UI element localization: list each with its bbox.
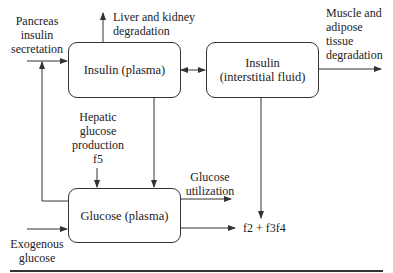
liver-label: Liver and kidney degradation	[113, 10, 195, 38]
pancreas-label: Pancreas insulin secretation	[8, 14, 66, 56]
insulin-plasma-box: Insulin (plasma)	[68, 42, 181, 98]
f-output-label: f2 + f3f4	[243, 221, 286, 235]
glucose-utilization-label: Glucose utilization	[184, 170, 236, 198]
insulin-interstitial-line2: (interstitial fluid)	[220, 70, 306, 84]
insulin-interstitial-line1: Insulin	[245, 56, 280, 70]
glucose-plasma-box: Glucose (plasma)	[68, 188, 181, 243]
exogenous-label: Exogenous glucose	[8, 237, 66, 265]
hepatic-label: Hepatic glucose production f5	[72, 110, 124, 166]
insulin-interstitial-box: Insulin (interstitial fluid)	[206, 42, 319, 98]
insulin-plasma-label: Insulin (plasma)	[84, 63, 166, 77]
glucose-feedback-arrow	[42, 62, 68, 201]
glucose-plasma-label: Glucose (plasma)	[81, 209, 169, 223]
muscle-label: Muscle and adipose tissue degradation	[326, 6, 383, 62]
